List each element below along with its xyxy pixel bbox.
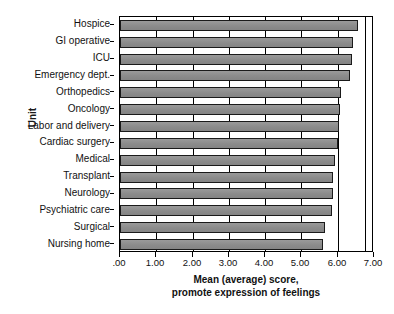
x-axis-tick-label: 6.00 <box>328 257 347 268</box>
y-axis-tick-label: Emergency dept. <box>34 70 110 80</box>
x-axis-tick-label: 4.00 <box>255 257 274 268</box>
y-axis-tick-labels: HospiceGI operativeICUEmergency dept.Ort… <box>18 16 114 252</box>
y-axis-tick: Medical <box>18 151 114 168</box>
bar-slot <box>120 152 372 169</box>
y-axis-tick-label: ICU <box>93 53 110 63</box>
y-axis-tick: Oncology <box>18 100 114 117</box>
bar <box>120 37 353 48</box>
x-axis-tick-label: 5.00 <box>291 257 310 268</box>
bar-slot <box>120 219 372 236</box>
x-axis-tick-label: .00 <box>112 257 125 268</box>
y-axis-tick: Labor and delivery <box>18 117 114 134</box>
bar <box>120 121 339 132</box>
bar-slot <box>120 17 372 34</box>
y-axis-tick-mark <box>110 91 114 92</box>
y-axis-tick-mark <box>110 108 114 109</box>
bar <box>120 188 333 199</box>
bars-layer <box>120 17 372 251</box>
y-axis-tick-mark <box>110 243 114 244</box>
bar <box>120 70 350 81</box>
bar <box>120 205 332 216</box>
x-axis-tick-label: 3.00 <box>219 257 238 268</box>
y-axis-tick: GI operative <box>18 33 114 50</box>
y-axis-tick-label: Transplant <box>63 171 110 181</box>
bar-slot <box>120 169 372 186</box>
y-axis-tick-mark <box>110 41 114 42</box>
bar-slot <box>120 34 372 51</box>
bar-slot <box>120 68 372 85</box>
bar-slot <box>120 84 372 101</box>
y-axis-tick-label: Hospice <box>74 19 110 29</box>
y-axis-tick-mark <box>110 24 114 25</box>
y-axis-tick-label: Orthopedics <box>56 87 110 97</box>
y-axis-tick: Psychiatric care <box>18 201 114 218</box>
y-axis-tick-label: Nursing home <box>48 239 110 249</box>
bar-chart: Unit HospiceGI operativeICUEmergency dep… <box>0 0 394 314</box>
x-axis-tick-label: 1.00 <box>146 257 165 268</box>
y-axis-tick: Hospice <box>18 16 114 33</box>
y-axis-tick-label: Oncology <box>68 104 110 114</box>
y-axis-tick-mark <box>110 176 114 177</box>
y-axis-tick: Transplant <box>18 168 114 185</box>
y-axis-tick-label: Cardiac surgery <box>39 137 110 147</box>
y-axis-tick-mark <box>110 125 114 126</box>
y-axis-tick: Orthopedics <box>18 83 114 100</box>
y-axis-tick-mark <box>110 193 114 194</box>
bar <box>120 20 358 31</box>
y-axis-tick-mark <box>110 142 114 143</box>
bar <box>120 172 333 183</box>
y-axis-tick-label: Medical <box>76 154 110 164</box>
y-axis-tick-label: Labor and delivery <box>28 121 110 131</box>
y-axis-tick-label: Psychiatric care <box>39 205 110 215</box>
y-axis-tick-label: GI operative <box>56 36 110 46</box>
x-axis-title-line-2: promote expression of feelings <box>119 286 373 299</box>
bar <box>120 239 323 250</box>
y-axis-tick-label: Neurology <box>64 188 110 198</box>
y-axis-tick-mark <box>110 75 114 76</box>
y-axis-tick: Neurology <box>18 185 114 202</box>
y-axis-tick-mark <box>110 226 114 227</box>
bar <box>120 104 340 115</box>
bar <box>120 155 335 166</box>
y-axis-tick-label: Surgical <box>74 222 110 232</box>
y-axis-tick: ICU <box>18 50 114 67</box>
bar-slot <box>120 118 372 135</box>
bar-slot <box>120 186 372 203</box>
bar-slot <box>120 202 372 219</box>
x-axis-tick-labels: .001.002.003.004.005.006.007.00 <box>119 257 373 271</box>
x-axis-tick-label: 2.00 <box>183 257 202 268</box>
x-axis-title-line-1: Mean (average) score, <box>119 273 373 286</box>
y-axis-tick-mark <box>110 58 114 59</box>
x-axis-title: Mean (average) score, promote expression… <box>119 273 373 299</box>
bar <box>120 87 341 98</box>
bar <box>120 222 325 233</box>
bar-slot <box>120 135 372 152</box>
bar <box>120 54 352 65</box>
bar <box>120 138 338 149</box>
bar-slot <box>120 51 372 68</box>
plot-area <box>119 16 373 252</box>
y-axis-tick: Surgical <box>18 218 114 235</box>
y-axis-tick-mark <box>110 159 114 160</box>
y-axis-tick: Cardiac surgery <box>18 134 114 151</box>
bar-slot <box>120 236 372 253</box>
y-axis-tick-mark <box>110 209 114 210</box>
y-axis-tick: Emergency dept. <box>18 67 114 84</box>
bar-slot <box>120 101 372 118</box>
y-axis-tick: Nursing home <box>18 235 114 252</box>
x-axis-tick-label: 7.00 <box>364 257 383 268</box>
